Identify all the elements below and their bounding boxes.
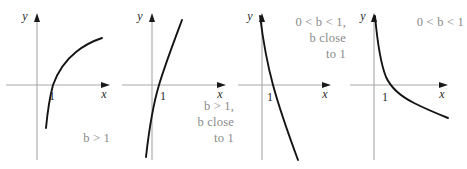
condition-line: b close [260, 30, 346, 46]
condition-line: 0 < b < 1 [372, 14, 464, 30]
condition-line: b > 1, [136, 98, 234, 114]
condition-line: to 1 [136, 130, 234, 146]
y-axis-label: y [136, 9, 143, 23]
y-axis-arrowhead [34, 13, 40, 22]
y-axis-label: y [21, 9, 28, 23]
condition-label-panel-1: b > 1 [18, 130, 110, 146]
y-axis-label: y [246, 9, 253, 23]
log-curve [46, 38, 102, 128]
condition-label-panel-2: b > 1, b close to 1 [136, 98, 234, 146]
y-axis-arrowhead [149, 13, 155, 22]
condition-line: b close [136, 114, 234, 130]
condition-label-panel-3: 0 < b < 1, b close to 1 [260, 14, 346, 62]
condition-line: to 1 [260, 46, 346, 62]
y-axis-label: y [359, 9, 366, 23]
x-intercept-label: 1 [382, 90, 388, 104]
graph-panel-b-greater-than-1-close: y x 1 b > 1, b close to 1 [118, 0, 236, 169]
condition-line: 0 < b < 1, [260, 14, 346, 30]
x-axis-label: x [100, 87, 107, 101]
graph-panel-b-greater-than-1: y x 1 b > 1 [0, 0, 118, 169]
graph-panel-b-between-0-and-1-close: y x 1 0 < b < 1, b close to 1 [236, 0, 348, 169]
x-intercept-label: 1 [267, 90, 273, 104]
graph-panel-b-between-0-and-1: y x 1 0 < b < 1 [348, 0, 467, 169]
x-axis-label: x [438, 87, 445, 101]
condition-line: b > 1 [18, 130, 110, 146]
x-axis-label: x [321, 87, 328, 101]
x-intercept-label: 1 [49, 89, 55, 103]
condition-label-panel-4: 0 < b < 1 [372, 14, 464, 30]
logarithm-graphs-figure: y x 1 b > 1 y x 1 b > 1, b close to 1 [0, 0, 467, 169]
